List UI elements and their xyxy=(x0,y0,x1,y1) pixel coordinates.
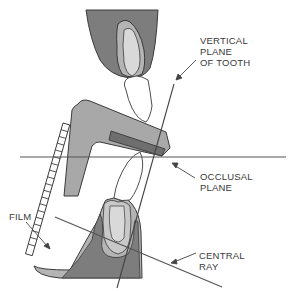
label-vertical-plane: VERTICAL PLANE OF TOOTH xyxy=(200,35,250,68)
label-central-ray: CENTRAL RAY xyxy=(199,250,247,272)
label-film: FILM xyxy=(9,211,31,222)
film-holder xyxy=(64,100,170,196)
dental-diagram: VERTICAL PLANE OF TOOTH OCCLUSAL PLANE C… xyxy=(0,0,291,291)
film xyxy=(26,123,70,256)
label-occlusal-plane: OCCLUSAL PLANE xyxy=(200,171,255,193)
